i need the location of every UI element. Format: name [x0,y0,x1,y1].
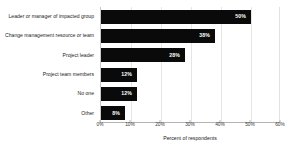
bar-row[interactable]: 12% [101,68,137,82]
x-tick-label: 10% [125,123,135,128]
bar-row[interactable]: 50% [101,10,251,24]
x-tick-label: 60% [275,123,285,128]
x-tick-label: 30% [185,123,195,128]
x-tick-label: 50% [245,123,255,128]
bar[interactable]: 12% [101,87,137,101]
bar-value-label: 28% [169,53,180,58]
bar[interactable]: 38% [101,29,215,43]
bar[interactable]: 28% [101,48,185,62]
category-label: Project team members [43,68,94,82]
bars-layer: 50%38%28%12%12%8% [101,7,279,122]
bar-value-label: 38% [199,33,210,38]
bar-value-label: 12% [121,72,132,77]
category-label: Change management resource or team [5,29,94,43]
bar[interactable]: 50% [101,10,251,24]
x-axis-ticks: 0%10%20%30%40%50%60% [100,123,280,133]
category-label: Project leader [63,48,94,62]
bar[interactable]: 12% [101,68,137,82]
category-label: Other [81,106,94,120]
bar-value-label: 8% [112,111,120,116]
category-axis-labels: Leader or manager of impacted groupChang… [0,7,97,123]
x-axis-title: Percent of respondents [100,136,280,141]
category-label: Leader or manager of impacted group [8,10,94,24]
x-tick-label: 40% [215,123,225,128]
bar-row[interactable]: 38% [101,29,215,43]
x-tick-label: 20% [155,123,165,128]
bar-value-label: 50% [235,14,246,19]
plot-area: 50%38%28%12%12%8% [100,7,280,123]
x-tick-label: 0% [97,123,104,128]
bar-row[interactable]: 8% [101,106,125,120]
bar-row[interactable]: 28% [101,48,185,62]
bar-chart: Leader or manager of impacted groupChang… [0,0,289,151]
bar-value-label: 12% [121,91,132,96]
bar-row[interactable]: 12% [101,87,137,101]
bar[interactable]: 8% [101,106,125,120]
category-label: No one [78,87,94,101]
